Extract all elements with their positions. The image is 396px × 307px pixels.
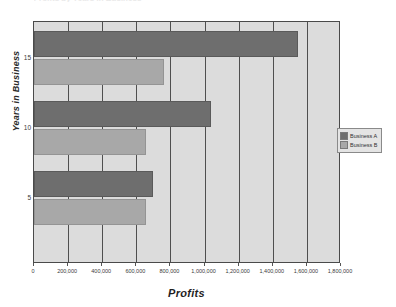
bar — [34, 31, 298, 57]
x-axis-tick-mark — [238, 263, 239, 266]
y-axis-tick-label: 15 — [13, 54, 31, 61]
x-axis-tick-mark — [272, 263, 273, 266]
x-axis-tick-label: 1,600,000 — [294, 268, 318, 274]
bar — [34, 171, 153, 197]
legend-item: Business A — [340, 132, 378, 140]
x-axis-tick-mark — [204, 263, 205, 266]
legend-item: Business B — [340, 141, 378, 149]
x-axis-tick-mark — [169, 263, 170, 266]
bar — [34, 129, 146, 155]
x-axis-tick-label: 200,000 — [57, 268, 77, 274]
x-axis-tick-label: 400,000 — [91, 268, 111, 274]
legend-swatch — [340, 141, 348, 149]
x-axis-tick-mark — [306, 263, 307, 266]
legend-swatch — [340, 132, 348, 140]
legend-label: Business A — [350, 133, 377, 139]
bar — [34, 59, 164, 85]
x-axis-tick-labels: 0200,000400,000600,000800,0001,000,0001,… — [33, 268, 340, 280]
bar — [34, 101, 211, 127]
legend-label: Business B — [350, 142, 378, 148]
x-axis-tick-label: 800,000 — [159, 268, 179, 274]
x-axis-tick-mark — [135, 263, 136, 266]
x-axis-tick-mark — [101, 263, 102, 266]
x-axis-tick-mark — [33, 263, 34, 266]
x-axis-tick-label: 0 — [31, 268, 34, 274]
x-axis-tick-marks — [33, 263, 340, 267]
x-axis-title: Profits — [33, 287, 340, 299]
bar — [34, 199, 146, 225]
y-axis-tick-label: 5 — [13, 194, 31, 201]
plot-area — [33, 21, 340, 263]
y-axis-tick-label: 10 — [13, 124, 31, 131]
x-axis-tick-label: 1,200,000 — [225, 268, 249, 274]
x-axis-tick-mark — [340, 263, 341, 266]
chart-title-remnant: Profits by Years in Business — [34, 0, 234, 2]
x-axis-tick-mark — [67, 263, 68, 266]
chart-legend: Business ABusiness B — [337, 128, 382, 153]
y-axis-tick-labels: 15105 — [10, 21, 31, 263]
x-axis-tick-label: 1,800,000 — [328, 268, 352, 274]
x-axis-tick-label: 600,000 — [125, 268, 145, 274]
x-axis-tick-label: 1,000,000 — [191, 268, 215, 274]
bar-group-container — [34, 22, 339, 262]
x-axis-tick-label: 1,400,000 — [260, 268, 284, 274]
